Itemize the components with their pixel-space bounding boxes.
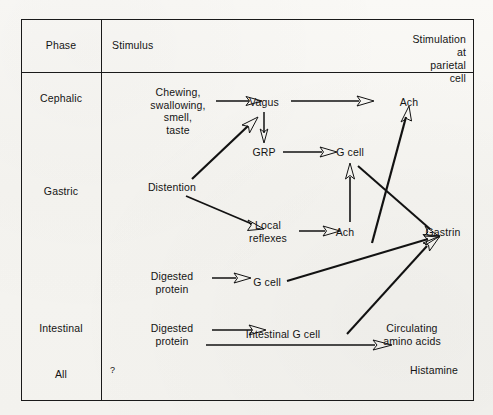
node-digested-protein-intestinal: Digested protein [132,322,212,347]
phase-label-cephalic: Cephalic [21,92,101,105]
node-circulating-amino-acids: Circulating amino acids [367,322,457,347]
phase-column-divider [101,19,102,401]
node-g-cell-top: G cell [325,146,375,159]
node-local-reflexes: Local reflexes [238,219,298,244]
node-intestinal-g-cell: Intestinal G cell [228,328,338,341]
node-g-cell-mid: G cell [242,276,292,289]
phase-label-gastric: Gastric [21,185,101,198]
node-distention: Distention [132,181,212,194]
node-digested-protein-gastric: Digested protein [132,270,212,295]
node-unknown-stimulus: ? [110,364,115,377]
header-row-divider [21,72,474,73]
header-stimulation-at-parietal-cell: Stimulation at parietal cell [412,33,466,85]
node-ach-top: Ach [389,96,429,109]
header-stimulus: Stimulus [112,39,153,52]
node-grp: GRP [244,146,284,159]
phase-label-all: All [21,368,101,381]
node-histamine: Histamine [394,364,474,377]
header-phase: Phase [24,39,98,52]
node-gastrin: Gastrin [415,226,471,239]
diagram-page: Phase Stimulus Stimulation at parietal c… [0,0,493,415]
node-chewing-swallowing-smell-taste: Chewing, swallowing, smell, taste [118,86,238,136]
node-vagus: Vagus [234,96,294,109]
node-ach-mid: Ach [325,226,365,239]
phase-label-intestinal: Intestinal [21,322,101,335]
